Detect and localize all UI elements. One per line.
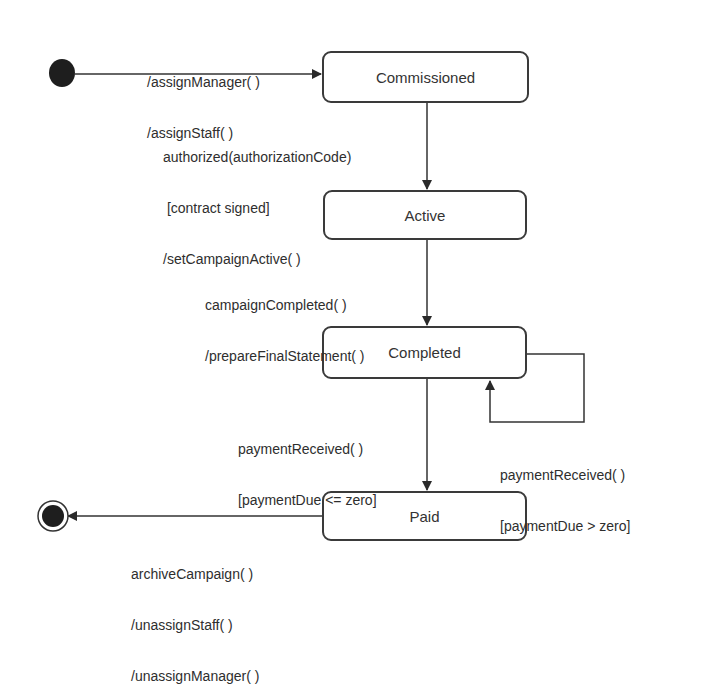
state-commissioned[interactable]: Commissioned <box>322 51 529 103</box>
final-state <box>38 501 68 531</box>
initial-state-dot <box>49 59 75 87</box>
transition-label-payment-loop: paymentReceived( ) [paymentDue > zero] <box>500 433 630 552</box>
state-label: Commissioned <box>376 69 475 86</box>
transition-label-campaign-completed: campaignCompleted( ) /prepareFinalStatem… <box>205 263 365 382</box>
state-active[interactable]: Active <box>323 190 527 240</box>
transition-label-authorized: authorized(authorizationCode) [contract … <box>163 115 351 285</box>
state-label: Paid <box>409 508 439 525</box>
state-label: Active <box>405 207 446 224</box>
transition-label-archive: archiveCampaign( ) /unassignStaff( ) /un… <box>131 532 259 688</box>
transition-label-payment-final: paymentReceived( ) [paymentDue <= zero] <box>238 407 377 526</box>
state-label: Completed <box>388 344 461 361</box>
